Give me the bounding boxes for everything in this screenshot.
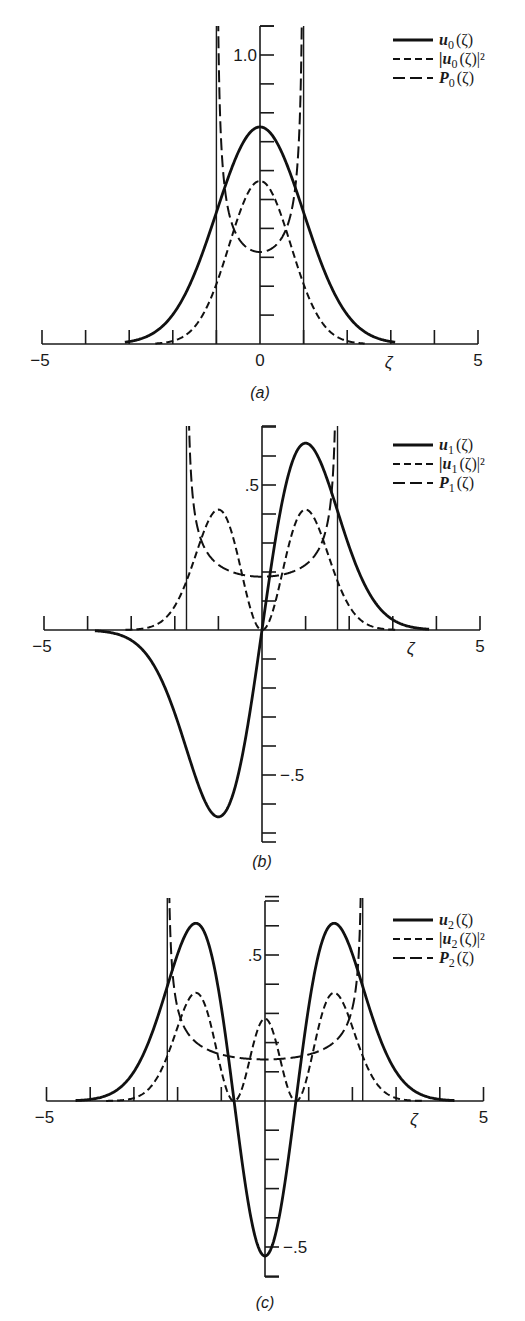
panel-caption: (c) (256, 1294, 275, 1311)
legend-label: u2(ζ) (439, 911, 473, 932)
legend-item: |u2(ζ)|² (393, 930, 485, 951)
y-tick-label: .5 (248, 946, 262, 965)
legend-label: P2(ζ) (438, 949, 474, 970)
legend-label: |u2(ζ)|² (439, 930, 485, 951)
y-tick-label: −.5 (283, 1238, 307, 1257)
y-axis (265, 897, 279, 1277)
legend-item: u2(ζ) (393, 911, 473, 932)
chart-panel-c: −55ζ .5−.5 u2(ζ)|u2(ζ)|²P2(ζ) (c) (0, 0, 525, 1321)
legend: u2(ζ)|u2(ζ)|²P2(ζ) (393, 911, 485, 970)
x-tick-labels: −55ζ (35, 1108, 488, 1129)
x-tick-label: 5 (479, 1108, 488, 1127)
x-axis-label: ζ (410, 1110, 419, 1129)
legend-item: P2(ζ) (393, 949, 474, 970)
x-tick-label: −5 (35, 1108, 54, 1127)
